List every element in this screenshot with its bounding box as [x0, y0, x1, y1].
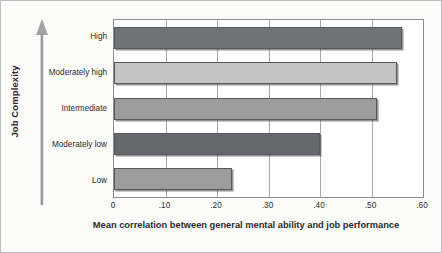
- x-tick-label: .10: [159, 201, 170, 210]
- plot-area: [113, 19, 424, 198]
- y-tick-label-high: High: [49, 19, 110, 55]
- y-axis-title: Job Complexity: [3, 1, 25, 201]
- y-tick-label-moderately-low: Moderately low: [49, 126, 110, 162]
- up-arrow-icon: [35, 19, 49, 205]
- bar-row: [114, 20, 423, 55]
- bar-row: [114, 162, 423, 197]
- bar-low[interactable]: [114, 168, 232, 190]
- x-tick-label: 0: [111, 201, 116, 210]
- y-axis-title-text: Job Complexity: [9, 65, 20, 137]
- bar-high[interactable]: [114, 27, 402, 49]
- bar-row: [114, 55, 423, 90]
- x-axis-title: Mean correlation between general mental …: [61, 220, 431, 230]
- bar-moderately-high[interactable]: [114, 62, 397, 84]
- x-tick-label: .40: [313, 201, 324, 210]
- chart-figure: Job Complexity High Moderately high Inte…: [0, 0, 442, 253]
- x-axis-tick-labels: 0.10.20.30.40.50.60: [113, 201, 424, 215]
- bar-row: [114, 91, 423, 126]
- bar-intermediate[interactable]: [114, 98, 377, 120]
- y-tick-label-intermediate: Intermediate: [49, 91, 110, 127]
- x-tick-label: .50: [365, 201, 376, 210]
- bar-series: [114, 20, 423, 197]
- bar-row: [114, 126, 423, 161]
- x-tick-label: .30: [262, 201, 273, 210]
- bar-moderately-low[interactable]: [114, 133, 320, 155]
- x-tick-label: .60: [416, 201, 427, 210]
- x-tick-label: .20: [210, 201, 221, 210]
- y-tick-label-low: Low: [49, 162, 110, 198]
- y-tick-label-moderately-high: Moderately high: [49, 55, 110, 91]
- y-axis-tick-labels: High Moderately high Intermediate Modera…: [49, 19, 110, 198]
